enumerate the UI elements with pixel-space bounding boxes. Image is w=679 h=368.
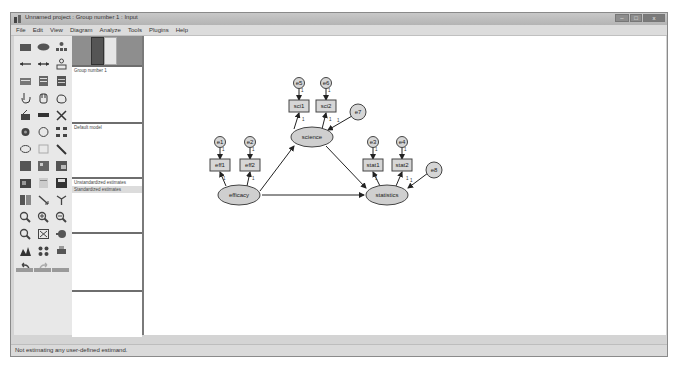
error-variable-e1[interactable]: e1 [215,137,226,148]
copy-to-clipboard-icon[interactable] [52,157,70,174]
drag-properties-icon[interactable] [16,191,34,208]
path-diagram[interactable]: 11111111111111 efficacysciencestatistics… [144,36,666,335]
svg-text:1: 1 [252,176,255,181]
menu-plugins[interactable]: Plugins [149,27,169,33]
move-objects-icon[interactable] [16,106,34,123]
zoom-in-region-icon[interactable] [52,191,70,208]
draw-covariance-icon[interactable] [34,55,52,72]
scroll-diagram-icon[interactable] [16,140,34,157]
svg-text:eff1: eff1 [215,162,226,168]
toolbox-tab[interactable] [52,268,69,272]
loupe-icon[interactable] [34,225,52,242]
svg-text:1: 1 [337,118,340,123]
svg-text:stat2: stat2 [395,162,409,168]
menu-file[interactable]: File [16,27,26,33]
reflect-indicators-icon[interactable] [34,123,52,140]
move-parameter-icon[interactable] [52,123,70,140]
print-icon[interactable] [34,242,52,259]
view-text-icon[interactable] [16,174,34,191]
error-variable-e6[interactable]: e6 [321,78,332,89]
observed-variable-sci1[interactable]: sci1 [289,100,309,112]
duplicate-icon[interactable] [52,89,70,106]
maximize-button[interactable]: □ [630,14,642,22]
latent-variable-science[interactable]: science [291,127,333,147]
undo-icon[interactable] [52,242,70,259]
add-unique-variable-icon[interactable] [52,55,70,72]
toolbox-tab[interactable] [16,268,33,272]
menu-tools[interactable]: Tools [128,27,142,33]
unstandardized-estimates-item[interactable]: Unstandardized estimates [72,179,142,186]
menu-analyze[interactable]: Analyze [100,27,121,33]
error-variable-e7[interactable]: e7 [350,104,366,120]
observed-variable-eff1[interactable]: eff1 [210,159,230,171]
svg-text:e8: e8 [431,167,438,173]
list-variables-in-dataset-icon[interactable] [34,72,52,89]
save-diagram-icon[interactable] [34,174,52,191]
select-data-files-icon[interactable] [52,140,70,157]
computation-summary-panel [72,232,142,290]
fit-to-page-icon[interactable] [16,225,34,242]
menu-edit[interactable]: Edit [33,27,43,33]
svg-text:e4: e4 [399,139,406,145]
rotate-indicators-icon[interactable] [16,123,34,140]
touch-up-icon[interactable] [34,140,52,157]
error-variable-e2[interactable]: e2 [245,137,256,148]
side-panels: Group number 1 Default model Unstandardi… [72,36,144,335]
observed-variable-stat1[interactable]: stat1 [363,159,383,171]
menu-help[interactable]: Help [176,27,188,33]
view-input-path-diagram-button[interactable] [91,37,104,65]
svg-text:e2: e2 [247,139,254,145]
observed-variable-stat2[interactable]: stat2 [392,159,412,171]
analysis-properties-icon[interactable] [16,157,34,174]
multiple-group-analysis-icon[interactable] [16,242,34,259]
standardized-estimates-item[interactable]: Standardized estimates [72,186,142,193]
error-variable-e4[interactable]: e4 [397,137,408,148]
menu-diagram[interactable]: Diagram [70,27,93,33]
model-item[interactable]: Default model [72,124,142,131]
svg-text:1: 1 [252,147,255,152]
draw-unobserved-variable-icon[interactable] [34,38,52,55]
svg-text:e3: e3 [370,139,377,145]
svg-text:1: 1 [375,147,378,152]
deselect-all-objects-icon[interactable] [34,89,52,106]
select-one-object-icon[interactable] [52,72,70,89]
group-item[interactable]: Group number 1 [72,67,142,74]
bayesian-estimation-icon[interactable] [52,225,70,242]
svg-text:1: 1 [302,117,305,122]
svg-text:e6: e6 [323,80,330,86]
view-output-path-diagram-button[interactable] [104,37,117,65]
minimize-button[interactable]: – [615,14,629,22]
select-all-objects-icon[interactable] [16,89,34,106]
toolbox-tab[interactable] [34,268,51,272]
svg-text:1: 1 [222,147,225,152]
svg-text:science: science [302,134,323,140]
preserve-symmetries-icon[interactable] [34,191,52,208]
amos-app-icon [14,15,22,23]
change-shape-icon[interactable] [52,106,70,123]
svg-text:1: 1 [328,88,331,93]
list-variables-in-model-icon[interactable] [16,72,34,89]
error-variable-e8[interactable]: e8 [426,162,442,178]
error-variable-e3[interactable]: e3 [368,137,379,148]
object-properties-icon[interactable] [52,174,70,191]
erase-objects-icon[interactable] [34,106,52,123]
zoom-out-icon[interactable] [34,208,52,225]
draw-observed-variable-icon[interactable] [16,38,34,55]
svg-text:sci2: sci2 [321,103,332,109]
diagram-canvas[interactable]: 11111111111111 efficacysciencestatistics… [144,36,666,335]
svg-text:1: 1 [223,176,226,181]
zoom-page-icon[interactable] [52,208,70,225]
error-variable-e5[interactable]: e5 [294,78,305,89]
zoom-in-icon[interactable] [16,208,34,225]
latent-variable-efficacy[interactable]: efficacy [218,185,260,205]
draw-latent-indicator-icon[interactable] [52,38,70,55]
draw-path-icon[interactable] [16,55,34,72]
close-button[interactable]: x [643,14,665,22]
calculate-estimates-icon[interactable] [34,157,52,174]
observed-variable-eff2[interactable]: eff2 [240,159,260,171]
view-switcher [72,36,142,65]
amos-window: Unnamed project : Group number 1 : Input… [10,12,668,357]
latent-variable-statistics[interactable]: statistics [366,185,408,205]
observed-variable-sci2[interactable]: sci2 [316,100,336,112]
menu-view[interactable]: View [50,27,63,33]
